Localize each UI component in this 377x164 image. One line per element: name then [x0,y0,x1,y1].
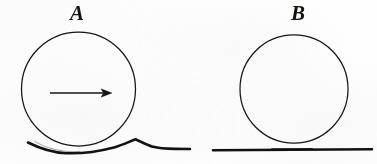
ground-line-a-deformed [28,139,190,153]
circle-b [240,35,348,143]
motion-arrow-a [50,89,112,97]
diagram-canvas [0,0,377,164]
circle-a [22,32,136,146]
panel-a-group [22,32,191,153]
panel-b-group [213,35,372,150]
panel-label-a: A [70,3,84,24]
figure-container: A B [0,0,377,164]
ground-a-contact-shadow [35,142,80,152]
panel-label-b: B [291,3,305,24]
